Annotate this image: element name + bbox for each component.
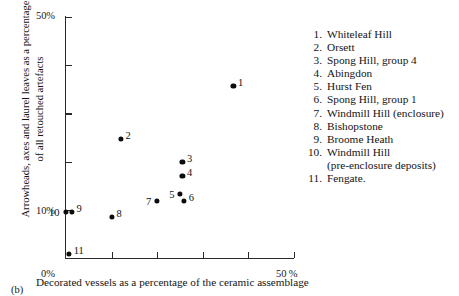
data-point [63, 210, 68, 215]
x-axis-line [65, 258, 294, 259]
data-point [109, 214, 114, 219]
legend-item-label: Spong Hill, group 1 [327, 93, 457, 106]
legend-item-number: 9. [305, 133, 322, 146]
legend-item: 3.Spong Hill, group 4 [305, 54, 457, 67]
legend-item-number: 7. [305, 107, 322, 120]
legend-item-number: 3. [305, 54, 322, 67]
legend-item: 11.Fengate. [305, 172, 457, 185]
legend-item-number: 8. [305, 120, 322, 133]
legend-item: 7.Windmill Hill (enclosure) [305, 107, 457, 120]
legend-item-label: Hurst Fen [327, 80, 457, 93]
legend-item: 8.Bishopstone [305, 120, 457, 133]
legend-item-label: Bishopstone [327, 120, 457, 133]
scatter-plot-figure: 50% 10% 0% 50 % Arrowheads, axes and lau… [0, 0, 459, 296]
data-point [69, 210, 74, 215]
data-point-label: 2 [126, 129, 131, 140]
legend-item: 6.Spong Hill, group 1 [305, 93, 457, 106]
data-point [154, 199, 159, 204]
legend-item-number: 11. [305, 172, 322, 185]
y-axis-title: Arrowheads, axes and laurel leaves as a … [19, 0, 47, 218]
data-point [118, 136, 123, 141]
legend-item: 1.Whiteleaf Hill [305, 28, 457, 41]
legend-item-number: 10. [305, 146, 322, 159]
legend-item-number: 4. [305, 67, 322, 80]
legend-item-number: 2. [305, 41, 322, 54]
legend-item-label: Windmill Hill (enclosure) [327, 107, 457, 120]
data-point-label: 4 [187, 167, 192, 178]
data-point [180, 173, 185, 178]
data-point [182, 199, 187, 204]
x-axis-tick [294, 252, 295, 258]
x-axis-tick [112, 252, 113, 258]
legend-item-label: Spong Hill, group 4 [327, 54, 457, 67]
data-point [180, 159, 185, 164]
x-axis-title: Decorated vessels as a percentage of the… [36, 276, 309, 288]
data-point-label: 9 [76, 203, 81, 214]
panel-label: (b) [11, 284, 23, 295]
legend-item: 5.Hurst Fen [305, 80, 457, 93]
y-axis-tick [66, 17, 72, 18]
legend-item-label: Whiteleaf Hill [327, 28, 457, 41]
y-axis-tick [66, 162, 72, 163]
legend-item-label: Fengate. [327, 172, 457, 185]
y-axis-tick [66, 65, 72, 66]
legend-item-label: Broome Heath [327, 133, 457, 146]
legend-item-label: Orsett [327, 41, 457, 54]
legend-item: 10.Windmill Hill [305, 146, 457, 159]
legend-item: 2.Orsett [305, 41, 457, 54]
legend-item: 4.Abingdon [305, 67, 457, 80]
legend-item-label: Windmill Hill [327, 146, 457, 159]
x-axis-tick [203, 252, 204, 258]
y-axis-tick [66, 113, 72, 114]
data-point-label: 6 [189, 192, 194, 203]
legend-item-label: Abingdon [327, 67, 457, 80]
data-point-label: 1 [238, 76, 243, 87]
data-point-label: 8 [116, 208, 121, 219]
data-point [231, 83, 236, 88]
x-axis-tick [248, 252, 249, 258]
legend-item-number: 1. [305, 28, 322, 41]
legend-item-number: 5. [305, 80, 322, 93]
data-point-label: 3 [187, 153, 192, 164]
data-point-label: 11 [74, 245, 84, 256]
y-axis-line [65, 16, 66, 259]
data-point-label: 7 [146, 196, 151, 207]
x-axis-tick [157, 252, 158, 258]
legend-item: 9.Broome Heath [305, 133, 457, 146]
legend: 1.Whiteleaf Hill2.Orsett3.Spong Hill, gr… [305, 28, 457, 185]
data-point [67, 252, 72, 257]
legend-item-number: 6. [305, 93, 322, 106]
data-point-label: 10 [49, 207, 60, 218]
legend-item-label-continued: (pre-enclosure deposits) [305, 159, 457, 172]
data-point-label: 5 [169, 188, 174, 199]
data-point [178, 191, 183, 196]
